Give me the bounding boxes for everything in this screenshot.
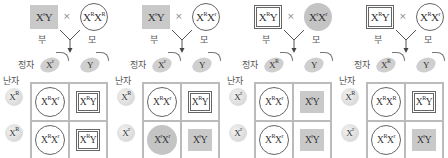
cross-panel-2: XrY×XRXr부모 정자XrY난자XRXrXRXrXRYXrXrXrY [112,0,224,158]
sperm-label: 정자 [354,58,370,71]
sperm-label: 정자 [18,58,34,71]
offspring-cell: XRY [181,83,219,121]
offspring-cell: XRXr [31,121,69,158]
father-genotype: XrY [30,5,58,29]
father-label: 부 [150,33,158,46]
sperm-tail-icon [208,52,221,61]
offspring-genotype: XRY [76,129,100,151]
offspring-genotype: XRY [76,91,100,113]
offspring-genotype: XRXr [147,87,177,117]
offspring-genotype: XrXr [147,125,177,155]
egg-cell: Xr [229,124,247,142]
egg-label: 난자 [227,74,243,87]
offspring-genotype: XRXr [35,125,65,155]
father-label: 부 [374,33,382,46]
offspring-cell: XrY [293,83,331,121]
egg-cell: XR [5,124,23,142]
offspring-genotype: XRXR [371,87,401,117]
mother-label: 모 [88,33,96,46]
mother-genotype: XRXr [192,3,220,31]
cross-symbol: × [287,11,295,21]
egg-cell: XR [341,88,359,106]
father-label: 부 [38,33,46,46]
egg-cell: XR [117,88,135,106]
cross-arrow-icon [282,28,306,54]
egg-cell: Xr [117,124,135,142]
father-genotype: XRY [254,5,282,29]
cross-arrow-icon [58,28,82,54]
cross-symbol: × [399,11,407,21]
sperm-tail-icon [432,52,445,61]
sperm-tail-icon [96,52,109,61]
father-genotype: XRY [366,5,394,29]
egg-cell: XR [5,88,23,106]
punnett-square: XRXRXRYXRXrXrY [366,82,444,158]
father-label: 부 [262,33,270,46]
egg-label: 난자 [115,74,131,87]
mother-label: 모 [424,33,432,46]
offspring-cell: XRY [405,83,443,121]
offspring-cell: XrY [405,121,443,158]
offspring-cell: XRXr [255,83,293,121]
punnett-square: XRXrXRYXRXrXRY [30,82,108,158]
cross-panel-4: XRY×XRXr부모 정자XRY난자XRXrXRXRXRYXRXrXrY [336,0,448,158]
sperm-label: 정자 [242,58,258,71]
mother-label: 모 [200,33,208,46]
sperm-tail-icon [320,52,333,61]
egg-cell: Xr [341,124,359,142]
offspring-cell: XrXr [143,121,181,158]
offspring-cell: XrY [181,121,219,158]
cross-arrow-icon [170,28,194,54]
offspring-genotype: XRXr [259,87,289,117]
cross-panel-1: XrY×XRXR부모 정자XrY난자XRXRXRXrXRYXRXrXRY [0,0,112,158]
mother-genotype: XrXr [304,3,332,31]
cross-symbol: × [175,11,183,21]
father-genotype: XrY [142,5,170,29]
offspring-cell: XRY [69,83,107,121]
sperm-label: 정자 [130,58,146,71]
offspring-cell: XrY [293,121,331,158]
offspring-genotype: XrY [188,129,212,151]
offspring-genotype: XRXr [259,125,289,155]
offspring-genotype: XrY [300,91,324,113]
offspring-cell: XRY [69,121,107,158]
punnett-square: XRXrXrYXRXrXrY [254,82,332,158]
punnett-square: XRXrXRYXrXrXrY [142,82,220,158]
offspring-genotype: XRY [412,91,436,113]
offspring-cell: XRXr [31,83,69,121]
offspring-genotype: XrY [300,129,324,151]
offspring-genotype: XrY [412,129,436,151]
offspring-cell: XRXR [367,83,405,121]
cross-arrow-icon [394,28,418,54]
offspring-genotype: XRXr [35,87,65,117]
offspring-cell: XRXr [367,121,405,158]
offspring-genotype: XRY [188,91,212,113]
egg-cell: Xr [229,88,247,106]
egg-label: 난자 [339,74,355,87]
mother-genotype: XRXR [80,3,108,31]
egg-label: 난자 [3,74,19,87]
cross-symbol: × [63,11,71,21]
mother-genotype: XRXr [416,3,444,31]
mother-label: 모 [312,33,320,46]
offspring-genotype: XRXr [371,125,401,155]
cross-panel-3: XRY×XrXr부모 정자XRY난자XrXrXRXrXrYXRXrXrY [224,0,336,158]
offspring-cell: XRXr [255,121,293,158]
offspring-cell: XRXr [143,83,181,121]
